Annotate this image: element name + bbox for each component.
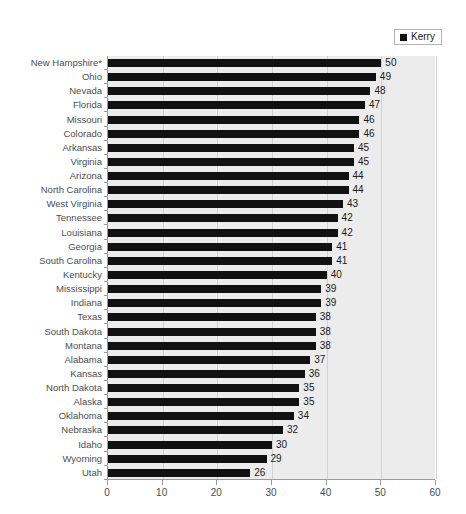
bar[interactable]: [108, 342, 316, 350]
bar-row: Oklahoma34: [108, 409, 435, 423]
category-label: North Carolina: [41, 183, 102, 197]
category-label: Utah: [82, 466, 102, 480]
category-label: Arizona: [70, 169, 102, 183]
bar[interactable]: [108, 370, 305, 378]
category-label: Wyoming: [62, 452, 102, 466]
bar-value-label: 48: [370, 84, 385, 98]
category-label: South Dakota: [44, 325, 102, 339]
bar-row: New Hampshire*50: [108, 56, 435, 70]
bar-row: Indiana39: [108, 296, 435, 310]
bar-value-label: 44: [349, 183, 364, 197]
bar[interactable]: [108, 398, 299, 406]
bar-chart: Kerry New Hampshire*50Ohio49Nevada48Flor…: [0, 0, 466, 514]
bar[interactable]: [108, 356, 310, 364]
bar[interactable]: [108, 412, 294, 420]
category-label: Oklahoma: [59, 409, 102, 423]
category-label: Georgia: [68, 240, 102, 254]
bar[interactable]: [108, 257, 332, 265]
bar[interactable]: [108, 214, 338, 222]
bar-value-label: 37: [310, 353, 325, 367]
bar[interactable]: [108, 158, 354, 166]
x-axis-tick-30: [271, 480, 272, 485]
bar-value-label: 26: [250, 466, 265, 480]
category-label: North Dakota: [46, 381, 102, 395]
category-label: Nevada: [69, 84, 102, 98]
bar[interactable]: [108, 172, 349, 180]
bar-value-label: 32: [283, 423, 298, 437]
x-axis: 0102030405060: [107, 480, 436, 506]
x-axis-label-0: 0: [104, 487, 110, 498]
bar[interactable]: [108, 455, 267, 463]
x-axis-label-40: 40: [320, 487, 331, 498]
bar[interactable]: [108, 186, 349, 194]
bar[interactable]: [108, 328, 316, 336]
bar-row: North Dakota35: [108, 381, 435, 395]
category-label: Tennessee: [56, 211, 102, 225]
bar-row: West Virginia43: [108, 197, 435, 211]
bar-value-label: 45: [354, 155, 369, 169]
bar-row: Colorado46: [108, 127, 435, 141]
x-axis-tick-50: [380, 480, 381, 485]
gridline-60: [436, 56, 437, 479]
bar-row: Kansas36: [108, 367, 435, 381]
bar-row: Alabama37: [108, 353, 435, 367]
bar-value-label: 34: [294, 409, 309, 423]
category-label: Arkansas: [62, 141, 102, 155]
bar[interactable]: [108, 243, 332, 251]
category-label: Texas: [77, 310, 102, 324]
bar[interactable]: [108, 299, 321, 307]
bar[interactable]: [108, 87, 370, 95]
x-axis-label-30: 30: [265, 487, 276, 498]
bar-row: Kentucky40: [108, 268, 435, 282]
bar[interactable]: [108, 441, 272, 449]
bar-value-label: 42: [338, 211, 353, 225]
x-axis-label-50: 50: [375, 487, 386, 498]
bar-value-label: 40: [327, 268, 342, 282]
bar[interactable]: [108, 144, 354, 152]
bar[interactable]: [108, 59, 381, 67]
bar[interactable]: [108, 313, 316, 321]
bar[interactable]: [108, 285, 321, 293]
bar-value-label: 35: [299, 381, 314, 395]
bar-row: Missouri46: [108, 113, 435, 127]
bar-value-label: 42: [338, 226, 353, 240]
bar-row: Tennessee42: [108, 211, 435, 225]
category-label: Mississippi: [56, 282, 102, 296]
bar-row: Wyoming29: [108, 452, 435, 466]
x-axis-label-20: 20: [211, 487, 222, 498]
category-label: Kansas: [70, 367, 102, 381]
plot-area: New Hampshire*50Ohio49Nevada48Florida47M…: [107, 56, 435, 480]
bar-value-label: 41: [332, 254, 347, 268]
bar[interactable]: [108, 200, 343, 208]
bar[interactable]: [108, 116, 359, 124]
bar[interactable]: [108, 101, 365, 109]
bar-row: Nebraska32: [108, 423, 435, 437]
bar-row: Virginia45: [108, 155, 435, 169]
bar[interactable]: [108, 426, 283, 434]
bar-row: Nevada48: [108, 84, 435, 98]
chart-legend: Kerry: [394, 29, 442, 45]
bar-row: Arkansas45: [108, 141, 435, 155]
category-label: Idaho: [78, 438, 102, 452]
category-label: Virginia: [70, 155, 102, 169]
category-label: Missouri: [67, 113, 102, 127]
bar-row: Idaho30: [108, 438, 435, 452]
bar[interactable]: [108, 229, 338, 237]
category-label: Kentucky: [63, 268, 102, 282]
bar-value-label: 39: [321, 296, 336, 310]
category-label: Alaska: [73, 395, 102, 409]
bar[interactable]: [108, 469, 250, 477]
bar-row: South Dakota38: [108, 325, 435, 339]
bar-row: Arizona44: [108, 169, 435, 183]
x-axis-label-10: 10: [156, 487, 167, 498]
bar[interactable]: [108, 130, 359, 138]
bar-value-label: 41: [332, 240, 347, 254]
bar-row: North Carolina44: [108, 183, 435, 197]
bar-value-label: 44: [349, 169, 364, 183]
bar[interactable]: [108, 384, 299, 392]
bar[interactable]: [108, 73, 376, 81]
category-label: Indiana: [71, 296, 102, 310]
bar-value-label: 35: [299, 395, 314, 409]
bar[interactable]: [108, 271, 327, 279]
category-label: West Virginia: [46, 197, 102, 211]
